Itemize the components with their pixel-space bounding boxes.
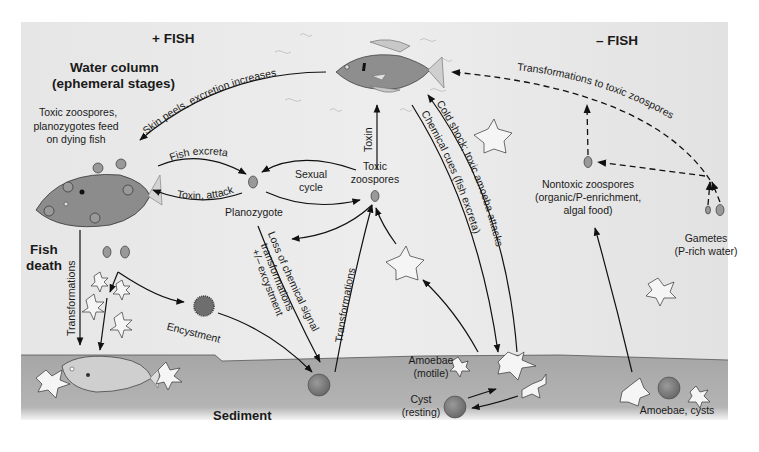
- life-cycle-diagram: + FISH – FISH Water column (ephemeral st…: [0, 0, 759, 452]
- amoebae-motile-label-1: Amoebae: [409, 354, 454, 366]
- fish-death-label-1: Fish: [30, 242, 58, 257]
- plus-fish-header: + FISH: [152, 31, 194, 46]
- amoebae-cysts-label: Amoebae, cysts: [640, 404, 715, 416]
- feed-label-3: on dying fish: [47, 133, 106, 145]
- amoebae-motile-label-2: (motile): [413, 367, 448, 379]
- arrow-label-transformations-left: Transformations: [65, 261, 77, 336]
- fish-death-label-2: death: [26, 258, 62, 273]
- minus-fish-header: – FISH: [596, 33, 638, 48]
- water-column-subtitle: (ephemeral stages): [52, 76, 175, 91]
- gametes-label-2: (P-rich water): [674, 245, 737, 257]
- feed-label-1: Toxic zoospores,: [39, 106, 117, 118]
- water-column-title: Water column: [70, 60, 159, 75]
- sexual-cycle-label-2: cycle: [299, 181, 323, 193]
- feed-label-2: planozygotes feed: [33, 120, 118, 132]
- arrow-label-toxin: Toxin: [362, 127, 374, 152]
- toxic-zoospores-label-2: zoospores: [351, 173, 399, 185]
- gametes-label-1: Gametes: [685, 232, 728, 244]
- nontoxic-label-3: algal food): [563, 204, 612, 216]
- sediment-label: Sediment: [213, 408, 272, 423]
- toxic-zoospores-label-1: Toxic: [363, 160, 387, 172]
- planozygote-label: Planozygote: [225, 206, 283, 218]
- nontoxic-label-1: Nontoxic zoospores: [542, 178, 634, 190]
- cyst-label-1: Cyst: [411, 393, 432, 405]
- cyst-label-2: (resting): [402, 406, 441, 418]
- nontoxic-label-2: (organic/P-enrichment,: [535, 191, 641, 203]
- sexual-cycle-label-1: Sexual: [295, 168, 327, 180]
